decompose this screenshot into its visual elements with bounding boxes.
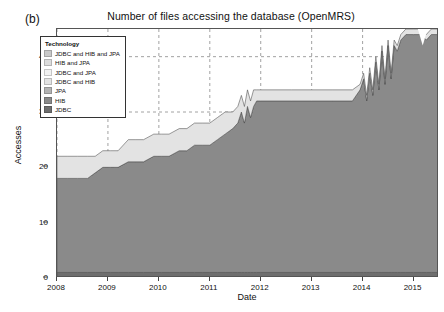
x-tick-label: 2009 bbox=[98, 283, 116, 292]
legend-title: Technology bbox=[45, 40, 122, 47]
legend-item-label: JDBC and HIB bbox=[55, 77, 95, 86]
x-tick-mark bbox=[311, 277, 312, 281]
legend-swatch bbox=[44, 50, 52, 57]
legend-swatch bbox=[44, 59, 52, 66]
legend-swatch bbox=[44, 97, 52, 104]
x-tick-label: 2011 bbox=[200, 283, 217, 292]
y-tick-mark bbox=[43, 221, 48, 222]
legend-swatch bbox=[44, 69, 52, 76]
legend-item[interactable]: JDBC and HIB and JPA bbox=[44, 49, 122, 58]
x-tick-label: 2010 bbox=[149, 283, 167, 292]
y-tick-mark bbox=[43, 166, 48, 167]
legend-swatch bbox=[44, 106, 52, 113]
x-tick-label: 2013 bbox=[302, 283, 320, 292]
legend-item[interactable]: JPA bbox=[44, 86, 122, 95]
y-axis-label: Accesses bbox=[13, 105, 23, 185]
legend-item-label: JPA bbox=[55, 86, 66, 95]
legend-item-label: JDBC bbox=[55, 105, 71, 114]
legend-swatch bbox=[44, 78, 52, 85]
legend-item-label: HIB bbox=[55, 96, 65, 105]
y-tick-mark bbox=[43, 277, 48, 278]
legend-item[interactable]: JDBC bbox=[44, 105, 122, 114]
x-tick-label: 2015 bbox=[404, 283, 422, 292]
x-tick-mark bbox=[56, 277, 57, 281]
legend-swatch bbox=[44, 87, 52, 94]
panel-letter: (b) bbox=[25, 12, 40, 26]
legend-item-label: HIB and JPA bbox=[55, 58, 90, 67]
x-tick-label: 2014 bbox=[353, 283, 371, 292]
x-tick-mark bbox=[107, 277, 108, 281]
x-tick-label: 2008 bbox=[47, 283, 65, 292]
chart-title: Number of files accessing the database (… bbox=[56, 10, 406, 22]
legend-item-label: JDBC and HIB and JPA bbox=[55, 49, 120, 58]
x-tick-mark bbox=[158, 277, 159, 281]
legend-item[interactable]: JDBC and HIB bbox=[44, 77, 122, 86]
legend-item[interactable]: JDBC and JPA bbox=[44, 68, 122, 77]
x-tick-mark bbox=[209, 277, 210, 281]
legend-item[interactable]: HIB bbox=[44, 95, 122, 104]
x-tick-label: 2012 bbox=[251, 283, 269, 292]
legend: Technology JDBC and HIB and JPAHIB and J… bbox=[40, 36, 126, 118]
x-tick-mark bbox=[362, 277, 363, 281]
legend-item-label: JDBC and JPA bbox=[55, 68, 96, 77]
x-tick-mark bbox=[413, 277, 414, 281]
x-axis-label: Date bbox=[56, 292, 438, 302]
legend-items: JDBC and HIB and JPAHIB and JPAJDBC and … bbox=[44, 49, 122, 114]
figure-panel-b: (b) Number of files accessing the databa… bbox=[0, 0, 444, 312]
x-tick-mark bbox=[260, 277, 261, 281]
legend-item[interactable]: HIB and JPA bbox=[44, 58, 122, 67]
